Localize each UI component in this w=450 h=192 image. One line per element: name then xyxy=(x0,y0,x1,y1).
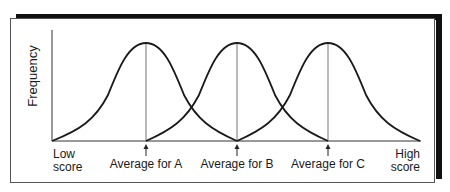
low-score-label: Low score xyxy=(53,148,82,174)
y-axis-label: Frequency xyxy=(25,45,40,106)
high-score-label: High score xyxy=(391,148,420,174)
average-a-label: Average for A xyxy=(110,158,183,171)
arrow-icon-b xyxy=(235,144,240,156)
arrow-icon-a xyxy=(144,144,149,156)
low-score-line2: score xyxy=(53,161,82,174)
high-score-line2: score xyxy=(391,161,420,174)
arrow-icon-c xyxy=(326,144,331,156)
average-b-label: Average for B xyxy=(200,158,273,171)
curve-a xyxy=(52,43,237,141)
average-c-label: Average for C xyxy=(291,158,365,171)
